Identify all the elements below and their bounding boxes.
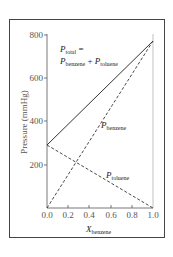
x-axis-label: Xbenzene	[85, 224, 111, 235]
series-p-toluene	[47, 145, 153, 208]
annotation-benzene: Pbenzene	[100, 120, 126, 131]
x-tick-labels: 0.0 0.2 0.4 0.6 0.8 1.0	[41, 210, 159, 220]
annotation-total-sum: Pbenzene + Ptoluene	[59, 56, 118, 67]
svg-text:1.0: 1.0	[147, 210, 159, 220]
svg-text:0.2: 0.2	[62, 210, 73, 220]
svg-text:600: 600	[30, 73, 44, 83]
svg-text:400: 400	[30, 116, 44, 126]
y-axis-label: Pressure (mmHg)	[19, 90, 29, 154]
svg-text:0.0: 0.0	[41, 210, 53, 220]
svg-text:200: 200	[30, 160, 44, 170]
annotation-toluene: Ptoluene	[105, 170, 129, 181]
y-ticks	[44, 35, 47, 165]
chart: 800 600 400 200 0.0 0.2 0.4 0.6 0.8 1.0 …	[0, 0, 173, 257]
svg-text:800: 800	[30, 30, 44, 40]
x-ticks	[68, 205, 132, 208]
svg-text:0.8: 0.8	[126, 210, 138, 220]
svg-text:0.6: 0.6	[105, 210, 117, 220]
y-tick-labels: 800 600 400 200	[30, 30, 44, 170]
svg-text:0.4: 0.4	[83, 210, 95, 220]
annotation-total: Ptotal =	[59, 44, 84, 55]
